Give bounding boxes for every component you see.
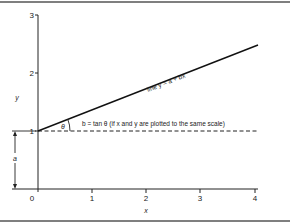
line-equation-label: line y = a + bx <box>146 71 187 93</box>
intercept-arrow-up-icon <box>13 131 17 136</box>
y-tick-label-1: 1 <box>30 127 35 136</box>
y-tick-label-3: 3 <box>30 11 35 20</box>
x-tick-label-3: 3 <box>198 194 203 203</box>
intercept-label: a <box>13 155 17 162</box>
y-tick-label-2: 2 <box>30 69 35 78</box>
intercept-arrow-down-icon <box>13 184 17 189</box>
theta-label: θ <box>61 123 65 130</box>
x-tick-label-2: 2 <box>144 194 149 203</box>
angle-arc <box>68 119 70 131</box>
x-tick-label-1: 1 <box>90 194 95 203</box>
diagram-canvas: 3 2 1 y 0 1 2 3 4 x line y = a + bx θ b … <box>0 0 290 224</box>
y-axis-label: y <box>14 94 19 102</box>
x-tick-label-4: 4 <box>253 194 258 203</box>
slope-annotation: b = tan θ (if x and y are plotted to the… <box>82 120 225 128</box>
x-axis-label: x <box>143 207 148 214</box>
diagram-frame: 3 2 1 y 0 1 2 3 4 x line y = a + bx θ b … <box>0 0 290 224</box>
x-tick-label-0: 0 <box>30 194 35 203</box>
